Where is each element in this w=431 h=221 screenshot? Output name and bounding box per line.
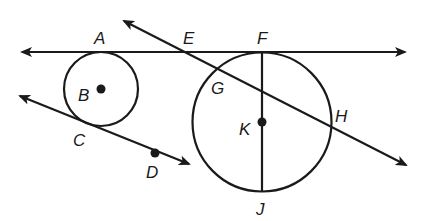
point-k-dot <box>258 118 267 127</box>
geometry-diagram: ABCDEFGHKJ <box>0 0 431 221</box>
point-label-a: A <box>93 29 105 48</box>
point-label-c: C <box>73 131 86 150</box>
point-label-f: F <box>257 29 269 48</box>
point-b-dot <box>97 85 106 94</box>
point-d-dot <box>151 149 160 158</box>
point-label-d: D <box>146 163 158 182</box>
point-label-h: H <box>335 107 348 126</box>
point-label-b: B <box>78 86 89 105</box>
point-label-e: E <box>183 29 195 48</box>
point-label-g: G <box>211 79 224 98</box>
tangent-line-CD <box>20 96 189 164</box>
point-label-j: J <box>255 200 265 219</box>
point-label-k: K <box>239 120 251 139</box>
